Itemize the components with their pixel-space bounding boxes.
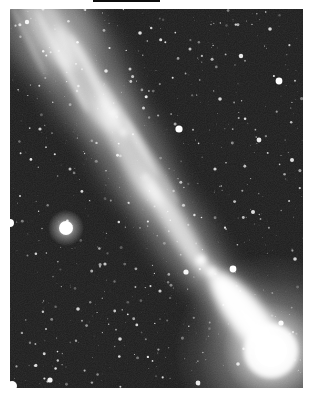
page-background [0, 0, 316, 397]
photo-canvas [10, 9, 303, 388]
comet-photograph [10, 9, 303, 388]
scan-artifact-line [93, 0, 160, 2]
film-grain [10, 9, 303, 388]
